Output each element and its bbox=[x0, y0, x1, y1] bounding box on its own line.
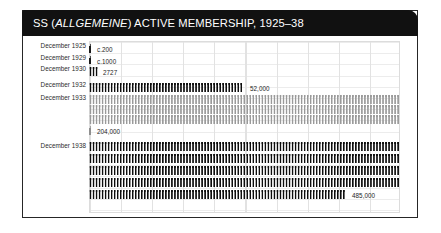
value-label-1938: 485,000 bbox=[352, 192, 375, 199]
figure-glyph-1925 bbox=[89, 44, 92, 53]
plot-area: December 1925 December 1929 December 193… bbox=[23, 37, 417, 217]
row-label-gutter: December 1925 December 1929 December 193… bbox=[23, 37, 86, 217]
row-label-1932: December 1932 bbox=[23, 81, 86, 88]
picto-bar-1933-line-1 bbox=[89, 95, 400, 104]
row-label-1930: December 1930 bbox=[23, 65, 86, 72]
picto-bar-1938-line-2 bbox=[89, 154, 400, 163]
row-label-1925: December 1925 bbox=[23, 42, 86, 49]
picto-bar-1938-line-5 bbox=[89, 190, 345, 199]
value-label-1932: 52,000 bbox=[250, 85, 270, 92]
picto-bar-1930 bbox=[89, 67, 98, 76]
chart-title-bar: SS (ALLGEMEINE) ACTIVE MEMBERSHIP, 1925–… bbox=[22, 10, 418, 36]
title-italic-term: ALLGEMEINE bbox=[55, 17, 128, 29]
picto-bar-1933-line-4 bbox=[89, 126, 92, 135]
pictogram-rows: c.200 c.1000 2727 52,000 204,000 485,000 bbox=[89, 41, 417, 213]
row-label-1929: December 1929 bbox=[23, 54, 86, 61]
title-suffix: ) ACTIVE MEMBERSHIP, 1925–38 bbox=[128, 17, 304, 29]
value-label-1925: c.200 bbox=[97, 46, 113, 53]
picto-bar-1932 bbox=[89, 83, 243, 92]
picto-bar-1938-line-3 bbox=[89, 166, 400, 175]
value-label-1930: 2727 bbox=[103, 69, 117, 76]
picto-bar-1933-line-3 bbox=[89, 115, 400, 124]
value-label-1929: c.1000 bbox=[97, 58, 116, 65]
page-title: SS (ALLGEMEINE) ACTIVE MEMBERSHIP, 1925–… bbox=[22, 17, 304, 29]
row-label-1938: December 1938 bbox=[23, 142, 86, 149]
figure-glyph-1929 bbox=[89, 56, 92, 65]
value-label-1933: 204,000 bbox=[97, 128, 120, 135]
picto-bar-1933-line-2 bbox=[89, 105, 400, 114]
title-prefix: SS ( bbox=[33, 17, 55, 29]
row-label-1933: December 1933 bbox=[23, 94, 86, 101]
pictogram-chart-figure: SS (ALLGEMEINE) ACTIVE MEMBERSHIP, 1925–… bbox=[0, 0, 441, 233]
picto-bar-1938-line-1 bbox=[89, 142, 400, 151]
picto-bar-1938-line-4 bbox=[89, 178, 400, 187]
